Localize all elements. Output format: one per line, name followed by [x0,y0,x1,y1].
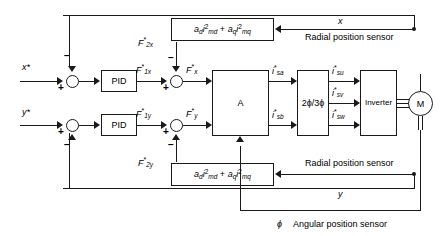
wire-isu [329,81,357,82]
wire-x-ref-input [20,81,59,82]
wire-isv [329,103,357,104]
wire-f2x-into-sum [176,42,177,67]
feedback-label-y: y [338,190,343,199]
motor-shaft-bottom-a [418,116,419,130]
signal-label-fx: F*x [186,63,197,76]
block-diagram-canvas: x* y* + + − − PID PID F*1x F*1y + + − − [0,0,448,236]
junction-dot-x-sensor [412,27,416,31]
sign-f2x-minus: − [168,53,174,63]
motor-shaft-top [420,74,421,91]
wire-y-feedback-up [69,133,70,188]
arrow-f2x-into-sum [172,66,180,72]
input-label-y-ref: y* [22,108,30,117]
wire-x-feedback-down [69,15,70,67]
signal-label-f2y: F*2y [138,156,153,169]
wire-isw [329,125,357,126]
pid-block-x[interactable]: PID [101,70,137,92]
wire-y-sensor-riser [414,174,415,188]
motor-symbol: M [408,91,433,116]
formula-bottom-text: adi2md + aqi2mq [194,169,251,180]
pid-block-y[interactable]: PID [101,114,137,136]
sign-x-plus: + [58,83,64,93]
wire-x-feedback-top [63,15,415,16]
formula-box-top[interactable]: adi2md + aqi2mq [171,18,274,41]
wire-phi-bottom [240,210,421,211]
wire-sensor-to-formula-top [280,29,414,30]
wire-inverter-motor-1 [397,99,409,100]
junction-dot-y-sensor [412,172,416,176]
signal-label-isw: i*sw [332,108,345,121]
wire-y-feedback-bottom [63,188,415,189]
formula-box-bottom[interactable]: adi2md + aqi2mq [171,163,274,186]
wire-f2y-into-sum [176,140,177,162]
arrow-phi-into-a [236,136,244,142]
inverter-block[interactable]: Inverter [360,70,397,136]
signal-label-isa: i*sa [272,64,284,77]
signal-label-f2x: F*2x [138,36,153,49]
sign-f1x-plus: + [163,83,169,93]
formula-top-text: adi2md + aqi2mq [194,24,251,35]
sign-f2y-minus: − [168,140,174,150]
transform-block-label: 2ϕ/3ϕ [302,99,325,108]
sum-junction-f-x [170,75,183,88]
signal-label-fy: F*y [186,107,197,120]
signal-label-isv: i*sv [332,86,343,99]
matrix-block-a[interactable]: A [212,70,269,136]
signal-label-isb: i*sb [272,108,284,121]
feedback-label-x: x [338,17,343,26]
sum-junction-y [66,119,79,132]
wire-phi-up-to-a [240,146,241,210]
wire-phi-riser [420,130,421,210]
sum-junction-x [66,75,79,88]
wire-sensor-to-formula-bottom [280,174,414,175]
angular-sensor-label: Angular position sensor [293,220,387,229]
input-label-x-ref: x* [22,63,30,72]
sum-junction-f-y [170,119,183,132]
arrow-f2y-into-sum [172,134,180,140]
wire-y-ref-input [20,125,59,126]
radial-sensor-label-top: Radial position sensor [305,33,394,42]
transform-block-2phi-3phi[interactable]: 2ϕ/3ϕ [297,70,329,136]
wire-inverter-motor-3 [397,107,409,108]
phi-symbol: ϕ [277,220,282,229]
sign-f1y-plus: + [163,127,169,137]
sign-y-plus: + [58,127,64,137]
signal-label-f1y: F*1y [136,107,151,120]
wire-pidx-to-sum2x [137,81,164,82]
motor-shaft-bottom-b [422,116,423,130]
signal-label-isu: i*su [332,64,344,77]
radial-sensor-label-bottom: Radial position sensor [305,159,394,168]
arrow-sumx-to-pidx [94,77,100,85]
inverter-label: Inverter [365,99,392,107]
wire-pidy-to-sum2y [137,125,164,126]
signal-label-f1x: F*1x [136,63,151,76]
arrow-sumy-to-pidy [94,121,100,129]
